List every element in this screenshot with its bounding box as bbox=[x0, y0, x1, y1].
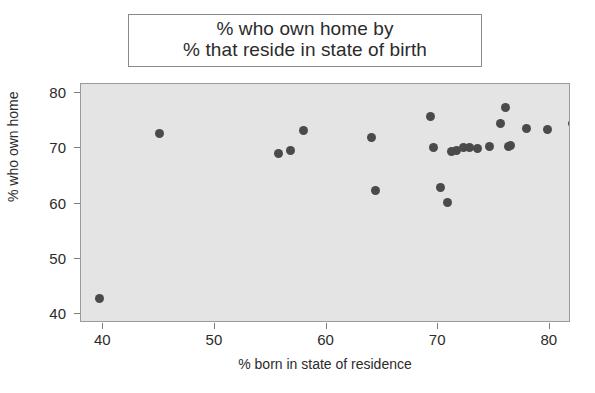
y-tick-label: 60 bbox=[18, 194, 66, 211]
y-tick-label: 40 bbox=[18, 304, 66, 321]
y-tick-mark bbox=[74, 147, 80, 148]
x-tick-label: 60 bbox=[306, 331, 346, 348]
data-point bbox=[496, 119, 505, 128]
data-point bbox=[274, 149, 283, 158]
data-point bbox=[506, 141, 515, 150]
plot-area bbox=[80, 83, 570, 322]
data-point bbox=[501, 103, 510, 112]
chart-title-line-1: % who own home by bbox=[135, 18, 475, 39]
data-point bbox=[473, 144, 482, 153]
data-point bbox=[426, 112, 435, 121]
x-tick-mark bbox=[102, 323, 103, 329]
data-point bbox=[371, 186, 380, 195]
data-point bbox=[436, 183, 445, 192]
x-tick-mark bbox=[437, 323, 438, 329]
x-tick-label: 80 bbox=[529, 331, 569, 348]
chart-title-line-2: % that reside in state of birth bbox=[135, 39, 475, 60]
x-tick-label: 40 bbox=[82, 331, 122, 348]
data-point bbox=[299, 126, 308, 135]
scatter-plot-figure: % who own home by % that reside in state… bbox=[0, 0, 595, 393]
data-points-layer bbox=[81, 84, 569, 321]
y-tick-mark bbox=[74, 203, 80, 204]
y-tick-label: 70 bbox=[18, 139, 66, 156]
y-tick-mark bbox=[74, 258, 80, 259]
x-tick-mark bbox=[214, 323, 215, 329]
y-tick-label: 50 bbox=[18, 249, 66, 266]
data-point bbox=[286, 146, 295, 155]
chart-title: % who own home by % that reside in state… bbox=[128, 14, 482, 67]
x-tick-mark bbox=[549, 323, 550, 329]
y-tick-label: 80 bbox=[18, 84, 66, 101]
data-point bbox=[429, 143, 438, 152]
data-point bbox=[443, 198, 452, 207]
data-point bbox=[367, 133, 376, 142]
data-point bbox=[568, 119, 570, 128]
y-tick-mark bbox=[74, 92, 80, 93]
x-tick-label: 50 bbox=[194, 331, 234, 348]
y-tick-mark bbox=[74, 313, 80, 314]
data-point bbox=[155, 129, 164, 138]
x-axis-label: % born in state of residence bbox=[80, 356, 570, 372]
x-tick-mark bbox=[326, 323, 327, 329]
data-point bbox=[485, 142, 494, 151]
data-point bbox=[543, 125, 552, 134]
x-tick-label: 70 bbox=[417, 331, 457, 348]
data-point bbox=[95, 294, 104, 303]
data-point bbox=[522, 124, 531, 133]
